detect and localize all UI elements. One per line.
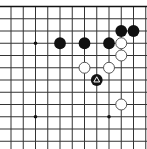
white-stone[interactable] (116, 50, 127, 61)
black-stone[interactable] (103, 37, 115, 49)
star-point (34, 41, 38, 45)
white-stone[interactable] (116, 38, 127, 49)
go-board[interactable] (0, 0, 147, 149)
black-stone[interactable] (54, 37, 66, 49)
white-stone[interactable] (116, 99, 127, 110)
star-point (34, 115, 38, 119)
black-stone[interactable] (115, 25, 127, 37)
black-stone[interactable] (79, 37, 91, 49)
board-background (0, 0, 147, 149)
star-point (107, 115, 111, 119)
black-stone[interactable] (128, 25, 140, 37)
white-stone[interactable] (104, 62, 115, 73)
white-stone[interactable] (79, 62, 90, 73)
